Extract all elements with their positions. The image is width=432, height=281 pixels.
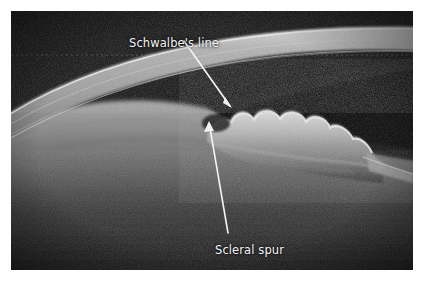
scleral-spur-label: Scleral spur — [215, 245, 284, 257]
oct-image-frame: Schwalbe's line Scleral spur — [11, 11, 413, 270]
schwalbe-line-label: Schwalbe's line — [129, 38, 219, 50]
figure-root: Schwalbe's line Scleral spur — [0, 0, 432, 281]
